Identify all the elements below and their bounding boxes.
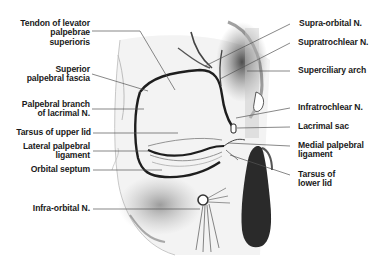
label-lacrimal-sac: Lacrimal sac	[298, 122, 349, 131]
anatomy-diagram: Tendon of levator palpebrae superioris S…	[0, 0, 382, 260]
label-infratrochlear-n: Infratrochlear N.	[298, 103, 363, 112]
label-superciliary-arch: Superciliary arch	[298, 66, 366, 75]
label-supratrochlear-n: Supratrochlear N.	[298, 38, 368, 47]
label-supra-orbital-n: Supra-orbital N.	[299, 19, 362, 28]
label-orbital-septum: Orbital septum	[31, 165, 90, 174]
label-tendon-levator: Tendon of levator palpebrae superioris	[20, 19, 90, 47]
label-palpebral-branch-lacrimal: Palpebral branch of lacrimal N.	[22, 100, 90, 119]
label-infra-orbital-n: Infra-orbital N.	[33, 204, 90, 213]
label-tarsus-upper-lid: Tarsus of upper lid	[16, 128, 91, 137]
label-tarsus-lower-lid: Tarsus of lower lid	[298, 170, 335, 189]
label-superior-palpebral-fascia: Superior palpebral fascia	[27, 65, 90, 84]
label-lateral-palpebral-ligament: Lateral palpebral ligament	[23, 142, 90, 161]
label-medial-palpebral-ligament: Medial palpebral ligament	[298, 141, 364, 160]
